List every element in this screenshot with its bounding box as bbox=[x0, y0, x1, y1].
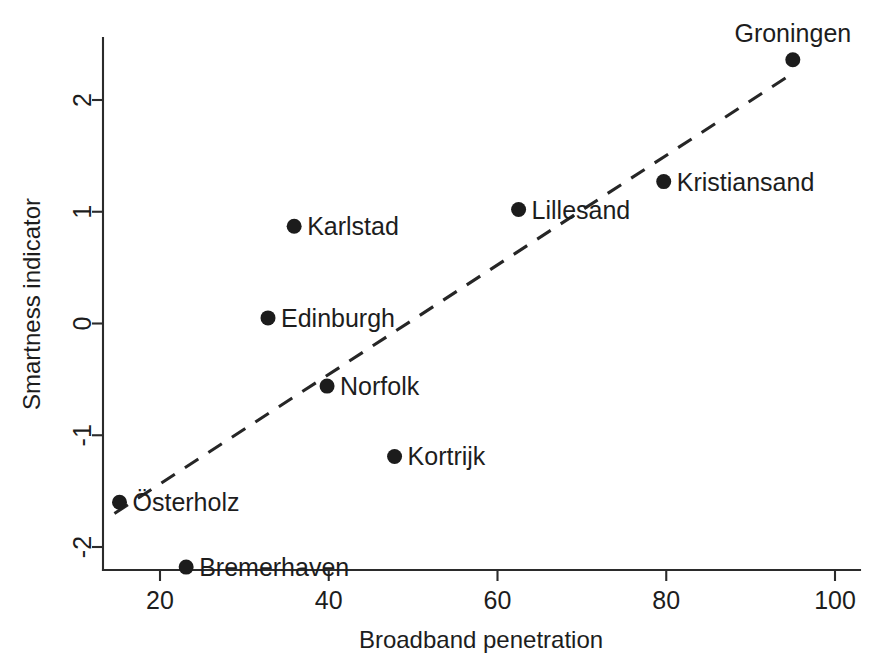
y-axis-ticks: 210-1-2 bbox=[68, 93, 103, 558]
data-point: Edinburgh bbox=[261, 304, 395, 332]
data-point: Kristiansand bbox=[656, 168, 814, 196]
point-marker bbox=[112, 495, 127, 510]
point-marker bbox=[320, 379, 335, 394]
point-label: Groningen bbox=[734, 19, 851, 47]
point-label: Österholz bbox=[133, 488, 240, 516]
data-point: Lillesand bbox=[511, 196, 630, 224]
x-tick-label: 40 bbox=[315, 586, 343, 614]
x-tick-label: 60 bbox=[484, 586, 512, 614]
point-marker bbox=[179, 560, 194, 575]
point-label: Karlstad bbox=[307, 212, 399, 240]
point-label: Bremerhaven bbox=[199, 553, 349, 581]
point-marker bbox=[287, 219, 302, 234]
point-marker bbox=[656, 174, 671, 189]
y-axis-title: Smartness indicator bbox=[18, 198, 45, 410]
x-tick-label: 80 bbox=[652, 586, 680, 614]
point-marker bbox=[785, 52, 800, 67]
data-point: Karlstad bbox=[287, 212, 399, 240]
point-label: Kortrijk bbox=[408, 442, 486, 470]
y-tick-label: 1 bbox=[68, 205, 96, 219]
y-tick-label: 0 bbox=[68, 317, 96, 331]
chart-canvas: 210-1-2 20406080100 GroningenKristiansan… bbox=[0, 0, 887, 669]
x-tick-label: 20 bbox=[146, 586, 174, 614]
y-tick-label: -1 bbox=[68, 424, 96, 446]
y-tick-label: 2 bbox=[68, 93, 96, 107]
point-marker bbox=[387, 449, 402, 464]
data-points-group: GroningenKristiansandLillesandKarlstadEd… bbox=[112, 19, 851, 581]
y-tick-label: -2 bbox=[68, 536, 96, 558]
point-label: Edinburgh bbox=[281, 304, 395, 332]
data-point: Norfolk bbox=[320, 372, 420, 400]
point-label: Lillesand bbox=[532, 196, 631, 224]
scatter-chart: 210-1-2 20406080100 GroningenKristiansan… bbox=[0, 0, 887, 669]
point-marker bbox=[511, 202, 526, 217]
point-marker bbox=[261, 310, 276, 325]
point-label: Kristiansand bbox=[677, 168, 815, 196]
data-point: Bremerhaven bbox=[179, 553, 350, 581]
data-point: Kortrijk bbox=[387, 442, 486, 470]
point-label: Norfolk bbox=[340, 372, 420, 400]
data-point: Groningen bbox=[734, 19, 851, 68]
data-point: Österholz bbox=[112, 488, 239, 516]
x-axis-title: Broadband penetration bbox=[359, 626, 603, 653]
x-tick-label: 100 bbox=[814, 586, 856, 614]
